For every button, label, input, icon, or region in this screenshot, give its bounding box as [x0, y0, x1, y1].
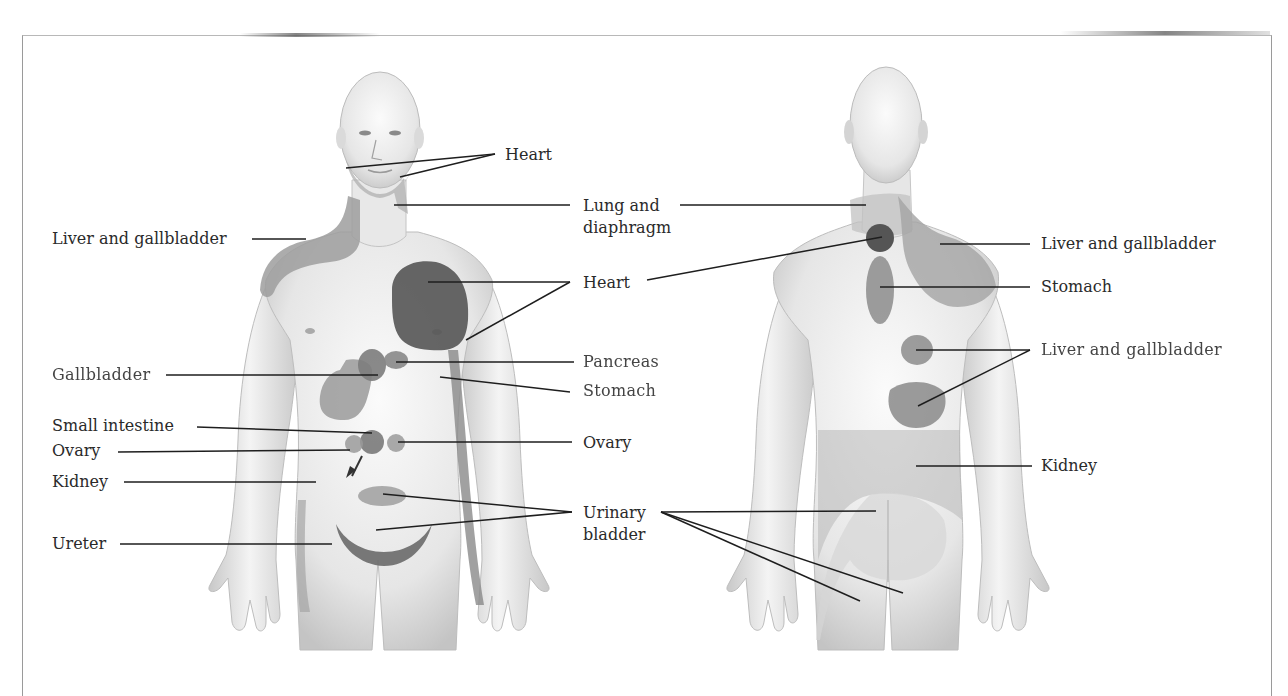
front-body-figure — [209, 72, 549, 650]
label-small-intestine: Small intestine — [52, 416, 174, 436]
label-gallbladder: Gallbladder — [52, 365, 150, 385]
front-ear-right — [336, 127, 346, 149]
region-pancreas — [384, 351, 408, 369]
label-kidney-front: Kidney — [52, 472, 108, 492]
label-heart-jaw: Heart — [505, 145, 552, 165]
label-lung-diaphragm: Lung and diaphragm — [583, 195, 671, 239]
label-ureter: Ureter — [52, 534, 106, 554]
label-ovary-right: Ovary — [583, 433, 631, 453]
label-liver-gallbladder-front: Liver and gallbladder — [52, 229, 227, 249]
label-urinary-bladder: Urinary bladder — [583, 502, 646, 546]
region-small-intestine — [360, 430, 384, 454]
front-eye-right — [359, 131, 371, 136]
label-liver-gallbladder-back-lower: Liver and gallbladder — [1041, 340, 1222, 360]
region-gallbladder — [358, 349, 386, 381]
label-ovary-left: Ovary — [52, 441, 100, 461]
label-kidney-back: Kidney — [1041, 456, 1097, 476]
front-eye-left — [389, 131, 401, 136]
label-heart-chest: Heart — [583, 273, 630, 293]
back-head — [850, 67, 922, 183]
region-ovary-left — [387, 434, 405, 452]
front-ear-left — [414, 127, 424, 149]
label-stomach-front: Stomach — [583, 381, 656, 401]
region-back-stomach — [866, 256, 894, 324]
label-stomach-back: Stomach — [1041, 277, 1112, 297]
label-liver-gallbladder-back-upper: Liver and gallbladder — [1041, 234, 1216, 254]
front-head — [340, 72, 420, 188]
label-pancreas: Pancreas — [583, 352, 659, 372]
